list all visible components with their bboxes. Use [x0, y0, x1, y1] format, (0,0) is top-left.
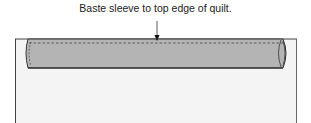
sleeve [26, 39, 286, 68]
arrow-down-icon [155, 21, 160, 41]
diagram-canvas [0, 0, 311, 123]
